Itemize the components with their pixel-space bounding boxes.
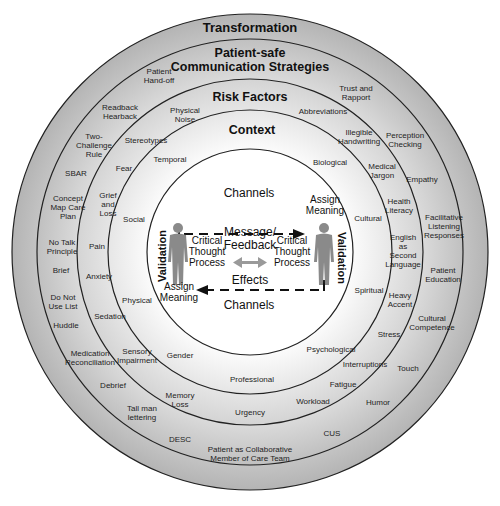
strategy-label: Brief [53,266,69,275]
risk-factor-label: Health Literacy [385,197,413,215]
strategy-label: No Talk Principle [47,238,78,256]
critical-thought-right: Critical Thought Process [274,235,311,268]
context-label: Spiritual [355,286,384,295]
strategy-label: Medication Reconciliation [65,349,115,367]
ring-title-risk-factors: Risk Factors [212,90,287,104]
critical-thought-left: Critical Thought Process [189,235,226,268]
communication-model-diagram: Transformation Patient-safe Communicatio… [0,0,500,506]
risk-factor-label: Fatigue [330,380,357,389]
risk-factor-label: Sensory Impairment [117,347,157,365]
strategy-label: Two- Challenge Rule [76,132,112,159]
context-label: Gender [167,351,194,360]
strategy-label: Debrief [100,381,126,390]
ring-title-context: Context [229,123,276,137]
strategy-label: Tall man lettering [127,404,157,422]
strategy-label: Perception Checking [386,131,424,149]
strategy-label: Patient as Collaborative Member of Care … [208,445,293,463]
context-label: Temporal [154,155,187,164]
strategy-label: Concept Map Care Plan [50,194,85,221]
strategy-label: Huddle [53,321,78,330]
strategy-label: Patient Education [425,266,461,284]
context-label: Psychological [307,345,356,354]
validation-left-label: Validation [156,230,168,282]
strategy-label: CUS [324,429,341,438]
risk-factor-label: Memory Loss [166,391,195,409]
context-label: Professional [230,375,274,384]
risk-factor-label: Workload [296,397,330,406]
ring-title-strategies: Patient-safe Communication Strategies [171,46,329,74]
assign-meaning-right: Assign Meaning [306,194,344,216]
strategy-label: Readback Hearback [102,103,138,121]
risk-factor-label: Urgency [235,408,265,417]
strategy-label: Touch [397,364,418,373]
risk-factor-label: Grief and Loss [99,191,116,218]
risk-factor-label: Stress [378,330,401,339]
strategy-label: Facilitative Listening Responses [424,213,464,240]
validation-right-label: Validation [336,232,348,284]
risk-factor-label: Sedation [94,312,126,321]
risk-factor-label: Stereotypes [125,136,168,145]
risk-factor-label: Heavy Accent [388,291,412,309]
risk-factor-label: Illegible Handwriting [338,128,380,146]
effects-label: Effects [232,274,268,287]
ring-title-transformation: Transformation [203,20,298,35]
context-label: Physical [122,296,152,305]
assign-meaning-left: Assign Meaning [160,281,198,303]
risk-factor-label: Interruptions [343,360,387,369]
risk-factor-label: English as Second Language [385,233,421,269]
strategy-label: Trust and Rapport [339,84,373,102]
channels-top-label: Channels [224,187,275,200]
strategy-label: DESC [169,435,191,444]
strategy-label: Cultural Competence [409,314,454,332]
risk-factor-label: Pain [89,242,105,251]
strategy-label: Do Not Use List [49,293,78,311]
risk-factor-label: Fear [116,164,132,173]
message-feedback-label: Message/ Feedback [224,226,277,252]
risk-factor-label: Anxiety [86,272,112,281]
strategy-label: Patient Hand-off [144,67,175,85]
channels-bottom-label: Channels [224,299,275,312]
context-label: Biological [313,158,347,167]
strategy-label: SBAR [65,169,87,178]
risk-factor-label: Physical Noise [170,106,200,124]
context-label: Social [123,215,145,224]
risk-factor-label: Medical Jargon [368,162,396,180]
strategy-label: Humor [366,398,390,407]
risk-factor-label: Abbreviations [299,107,347,116]
strategy-label: Empathy [406,175,438,184]
context-label: Cultural [354,214,382,223]
